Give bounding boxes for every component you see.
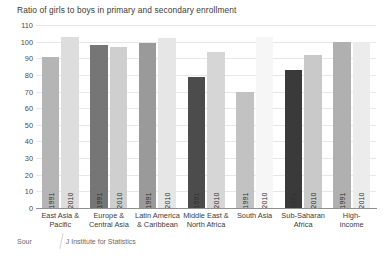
- category-label-line: East Asia &: [36, 211, 85, 220]
- category-label: Sub-SaharanAfrica: [279, 211, 328, 230]
- y-axis-tick-110: 110: [3, 21, 33, 30]
- y-axis-tick-40: 40: [3, 137, 33, 146]
- category-label-line: North Africa: [182, 220, 231, 229]
- category-label: Europe &Central Asia: [85, 211, 134, 230]
- category-label: High-income: [327, 211, 376, 230]
- category-label: Middle East &North Africa: [182, 211, 231, 230]
- y-axis-tick-50: 50: [3, 120, 33, 129]
- bar[interactable]: 2010: [207, 52, 225, 208]
- bar-year-label: 2010: [212, 192, 219, 208]
- bar-year-label: 1991: [47, 192, 54, 208]
- bar-year-label: 2010: [261, 192, 268, 208]
- y-axis-tick-100: 100: [3, 37, 33, 46]
- bar-year-label: 1991: [241, 192, 248, 208]
- y-axis-tick-70: 70: [3, 87, 33, 96]
- bars-layer: 1991201019912010199120101991201019912010…: [36, 25, 376, 208]
- bar[interactable]: 2010: [256, 37, 274, 208]
- bar[interactable]: 2010: [304, 55, 322, 208]
- category-label-line: High-: [327, 211, 376, 220]
- y-axis-tick-labels: 0102030405060708090100110: [0, 25, 33, 209]
- category-label: South Asia: [230, 211, 279, 220]
- source-note: SourJ Institute for Statistics: [17, 238, 136, 245]
- y-axis-tick-60: 60: [3, 104, 33, 113]
- bar[interactable]: 2010: [61, 37, 79, 208]
- category-label: East Asia &Pacific: [36, 211, 85, 230]
- category-label-line: Central Asia: [85, 220, 134, 229]
- bar-year-label: 1991: [193, 192, 200, 208]
- x-axis-line: [36, 208, 377, 209]
- bar-year-label: 1991: [290, 192, 297, 208]
- category-label-line: Africa: [279, 220, 328, 229]
- category-label-line: income: [327, 220, 376, 229]
- bar-year-label: 2010: [358, 192, 365, 208]
- category-label-line: Middle East &: [182, 211, 231, 220]
- category-label-line: Pacific: [36, 220, 85, 229]
- chart-figure: Ratio of girls to boys in primary and se…: [0, 0, 390, 256]
- bar[interactable]: 2010: [110, 47, 128, 208]
- bar-year-label: 1991: [338, 192, 345, 208]
- bar[interactable]: 1991: [139, 43, 157, 208]
- category-label-line: South Asia: [230, 211, 279, 220]
- y-axis-tick-20: 20: [3, 170, 33, 179]
- category-label-line: Sub-Saharan: [279, 211, 328, 220]
- source-prefix: Sour: [17, 238, 32, 245]
- bar[interactable]: 1991: [285, 70, 303, 208]
- bar-year-label: 2010: [309, 192, 316, 208]
- y-axis-tick-30: 30: [3, 154, 33, 163]
- y-axis-tick-80: 80: [3, 70, 33, 79]
- category-label-line: Europe &: [85, 211, 134, 220]
- bar[interactable]: 1991: [42, 57, 60, 208]
- bar[interactable]: 1991: [236, 92, 254, 208]
- bar[interactable]: 1991: [188, 77, 206, 208]
- bar-year-label: 2010: [115, 192, 122, 208]
- x-axis-category-labels: East Asia &PacificEurope &Central AsiaLa…: [36, 211, 377, 235]
- y-axis-tick-90: 90: [3, 54, 33, 63]
- bar[interactable]: 1991: [333, 42, 351, 208]
- bar-year-label: 2010: [164, 192, 171, 208]
- category-label-line: & Caribbean: [133, 220, 182, 229]
- plot-area: 1991201019912010199120101991201019912010…: [36, 25, 376, 208]
- y-axis-tick-0: 0: [3, 204, 33, 213]
- category-label-line: Latin America: [133, 211, 182, 220]
- category-label: Latin America& Caribbean: [133, 211, 182, 230]
- bar[interactable]: 2010: [353, 42, 371, 208]
- source-suffix: J Institute for Statistics: [66, 238, 136, 245]
- y-axis-tick-10: 10: [3, 187, 33, 196]
- bar-year-label: 1991: [144, 192, 151, 208]
- bar-year-label: 2010: [67, 192, 74, 208]
- chart-title: Ratio of girls to boys in primary and se…: [17, 5, 236, 15]
- bar[interactable]: 1991: [90, 45, 108, 208]
- bar[interactable]: 2010: [158, 38, 176, 208]
- bar-year-label: 1991: [96, 192, 103, 208]
